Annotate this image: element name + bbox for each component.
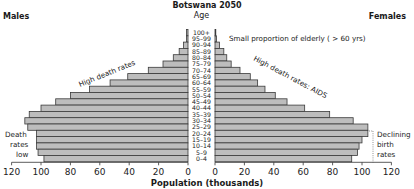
age-group-labels: 100+95–9990–9485–8980–8475–7970–7465–696…	[192, 29, 211, 162]
female-bar-30–34	[215, 118, 353, 124]
age-label: 0–4	[196, 155, 207, 162]
male-bar-80–84	[173, 55, 188, 61]
male-bar-95–99	[187, 36, 188, 42]
female-bar-75–79	[215, 61, 231, 67]
x-tick-label: 120	[383, 167, 400, 177]
male-bar-10–14	[37, 143, 188, 149]
female-bar-35–39	[215, 111, 330, 117]
male-bar-65–69	[128, 74, 188, 80]
male-bar-30–34	[25, 118, 188, 124]
male-bar-85–89	[179, 48, 188, 54]
female-bar-20–24	[215, 130, 368, 136]
svg-text:Death: Death	[5, 130, 27, 139]
female-bar-0–4	[215, 156, 352, 162]
female-bar-95–99	[215, 36, 216, 42]
x-axes: 120100806040200020406080100120	[3, 162, 400, 177]
x-tick-label: 80	[327, 167, 339, 177]
x-tick-label: 0	[212, 167, 218, 177]
x-axis-label: Population (thousands)	[0, 178, 414, 188]
male-bar-20–24	[37, 130, 188, 136]
x-tick-label: 40	[123, 167, 135, 177]
males-bars	[25, 30, 188, 162]
male-bar-100+	[187, 30, 188, 36]
x-tick-label: 20	[239, 167, 251, 177]
male-bar-55–59	[90, 86, 188, 92]
male-bar-90–94	[184, 42, 188, 48]
x-tick-label: 100	[32, 167, 49, 177]
svg-text:rates: rates	[10, 140, 29, 149]
male-bar-75–79	[163, 61, 188, 67]
male-bar-40–44	[41, 105, 188, 111]
x-tick-label: 0	[185, 167, 191, 177]
female-bar-50–54	[215, 93, 275, 99]
x-tick-label: 40	[268, 167, 280, 177]
female-bar-85–89	[215, 48, 224, 54]
x-tick-label: 120	[3, 167, 20, 177]
x-tick-label: 80	[65, 167, 77, 177]
female-bar-15–19	[215, 137, 362, 143]
female-bar-100+	[215, 30, 216, 36]
male-bar-25–29	[28, 124, 188, 130]
male-bar-15–19	[37, 137, 188, 143]
females-bars	[215, 30, 368, 162]
female-bar-5–9	[215, 149, 358, 155]
female-bar-55–59	[215, 86, 265, 92]
svg-text:rates: rates	[377, 150, 396, 159]
annotation-elderly: Small proportion of elderly ( > 60 yrs)	[229, 34, 366, 43]
female-bar-40–44	[215, 105, 305, 111]
x-tick-label: 60	[94, 167, 106, 177]
svg-text:birth: birth	[377, 140, 394, 149]
male-bar-5–9	[38, 149, 188, 155]
annotation-declining-birth-rates: Declining birth rates	[369, 130, 411, 163]
x-tick-label: 20	[153, 167, 165, 177]
female-bar-90–94	[215, 42, 219, 48]
male-bar-0–4	[44, 156, 188, 162]
x-tick-label: 100	[353, 167, 370, 177]
svg-text:low: low	[16, 150, 28, 159]
female-bar-80–84	[215, 55, 227, 61]
male-bar-35–39	[29, 111, 188, 117]
female-bar-45–49	[215, 99, 287, 105]
female-bar-60–64	[215, 80, 258, 86]
female-bar-25–29	[215, 124, 368, 130]
annotation-death-rates-low: Death rates low	[5, 130, 29, 159]
female-bar-70–74	[215, 67, 240, 73]
svg-text:Declining: Declining	[377, 130, 411, 139]
male-bar-45–49	[56, 99, 188, 105]
x-tick-label: 60	[297, 167, 309, 177]
male-bar-70–74	[148, 67, 188, 73]
male-bar-60–64	[110, 80, 188, 86]
population-pyramid-plot: 100+95–9990–9485–8980–8475–7970–7465–696…	[0, 0, 414, 189]
male-bar-50–54	[70, 93, 188, 99]
female-bar-65–69	[215, 74, 250, 80]
female-bar-10–14	[215, 143, 359, 149]
